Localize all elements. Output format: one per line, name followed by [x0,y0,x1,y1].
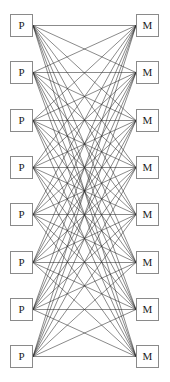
node-label: M [143,67,153,78]
graph-node-p4[interactable]: P [10,156,33,179]
graph-node-m1[interactable]: M [136,14,159,37]
graph-node-m6[interactable]: M [136,251,159,274]
node-label: M [143,162,153,173]
node-label: P [18,67,24,78]
graph-node-p8[interactable]: P [10,345,33,368]
graph-node-p1[interactable]: P [10,14,33,37]
node-label: P [18,20,24,31]
node-label: P [18,304,24,315]
node-label: M [143,20,153,31]
node-label: P [18,115,24,126]
edge-layer [0,0,170,382]
node-label: P [18,257,24,268]
node-label: M [143,257,153,268]
node-label: P [18,351,24,362]
graph-node-m8[interactable]: M [136,345,159,368]
graph-node-p5[interactable]: P [10,203,33,226]
node-label: M [143,115,153,126]
node-label: M [143,209,153,220]
node-label: M [143,351,153,362]
node-label: M [143,304,153,315]
node-label: P [18,162,24,173]
graph-node-p7[interactable]: P [10,298,33,321]
graph-node-m7[interactable]: M [136,298,159,321]
node-label: P [18,209,24,220]
graph-node-p2[interactable]: P [10,61,33,84]
bipartite-graph-diagram: PPPPPPPP MMMMMMMM [0,0,170,382]
graph-node-m3[interactable]: M [136,109,159,132]
graph-node-p6[interactable]: P [10,251,33,274]
graph-node-m4[interactable]: M [136,156,159,179]
graph-node-m5[interactable]: M [136,203,159,226]
graph-node-p3[interactable]: P [10,109,33,132]
graph-node-m2[interactable]: M [136,61,159,84]
